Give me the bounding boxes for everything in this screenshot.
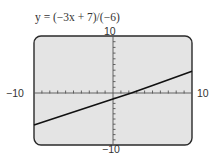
graph-screen (0, 0, 217, 155)
